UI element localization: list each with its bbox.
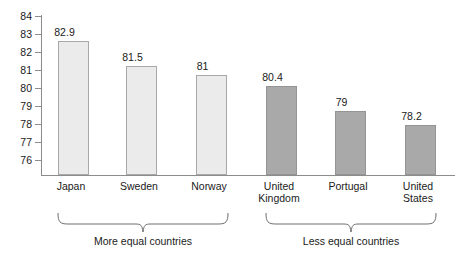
y-axis-tick-label-wrap: 80 [0, 83, 32, 93]
bar-value-japan: 82.9 [43, 27, 86, 38]
brace-more-equal [57, 213, 229, 233]
group-label-more-equal: More equal countries [57, 235, 229, 247]
y-axis-tick-label: 77 [2, 137, 32, 147]
bar-sweden[interactable] [126, 66, 157, 175]
x-axis-label-line1: Norway [178, 180, 240, 192]
brace-less-equal [265, 213, 437, 233]
x-axis-label-line2: Kingdom [248, 192, 310, 204]
x-axis-label-line1: Portugal [317, 180, 379, 192]
x-axis-label-line1: United [248, 180, 310, 192]
group-label-less-equal: Less equal countries [265, 235, 437, 247]
plot-area [41, 16, 455, 175]
bar-norway[interactable] [196, 75, 227, 175]
y-axis-tick-label: 79 [2, 101, 32, 111]
x-axis-label-line1: United [387, 180, 449, 192]
y-axis-tick-label: 83 [2, 29, 32, 39]
y-axis-tick-label-wrap: 83 [0, 29, 32, 39]
x-axis-label-united-kingdom: United Kingdom [248, 180, 310, 204]
bar-portugal[interactable] [335, 111, 366, 175]
y-axis-tick-label: 80 [2, 83, 32, 93]
bar-chart: 84 83 82 81 80 79 78 77 76 82.9 81.5 81 … [0, 0, 461, 263]
y-axis-tick-label-wrap: 79 [0, 101, 32, 111]
y-axis-tick-label-wrap: 77 [0, 137, 32, 147]
x-axis-label-portugal: Portugal [317, 180, 379, 192]
y-axis-tick-label-wrap: 82 [0, 47, 32, 57]
x-axis-label-sweden: Sweden [108, 180, 170, 192]
x-axis-label-norway: Norway [178, 180, 240, 192]
x-axis-label-line1: Japan [40, 180, 102, 192]
x-axis-label-japan: Japan [40, 180, 102, 192]
bar-japan[interactable] [58, 41, 89, 175]
bar-value-norway: 81 [181, 61, 224, 72]
y-axis-tick-label: 78 [2, 119, 32, 129]
y-axis-tick-label: 81 [2, 65, 32, 75]
bar-value-sweden: 81.5 [111, 52, 154, 63]
x-axis-label-united-states: United States [387, 180, 449, 204]
y-axis-tick-label: 76 [2, 155, 32, 165]
bar-value-united-states: 78.2 [390, 111, 433, 122]
y-axis-tick-label-wrap: 81 [0, 65, 32, 75]
bar-value-united-kingdom: 80.4 [251, 72, 294, 83]
y-axis-tick-label-wrap: 76 [0, 155, 32, 165]
y-axis-tick-label-wrap: 78 [0, 119, 32, 129]
y-axis-tick-label: 84 [2, 11, 32, 21]
y-axis-tick-label: 82 [2, 47, 32, 57]
x-axis-label-line2: States [387, 192, 449, 204]
bar-value-portugal: 79 [320, 97, 363, 108]
x-axis-label-line1: Sweden [108, 180, 170, 192]
bar-united-states[interactable] [405, 125, 436, 175]
x-axis-line [41, 175, 455, 176]
bar-united-kingdom[interactable] [266, 86, 297, 175]
y-axis-tick-label-wrap: 84 [0, 11, 32, 21]
